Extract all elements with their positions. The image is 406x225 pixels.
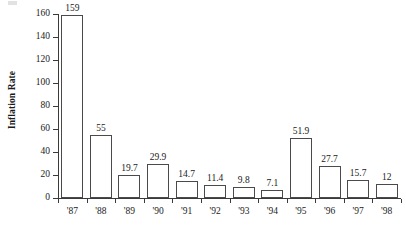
bar (204, 185, 226, 198)
bar-value-label: 51.9 (279, 126, 323, 136)
y-axis-tick-label: 60 (0, 124, 50, 134)
x-axis-tick (58, 199, 59, 203)
bar (261, 190, 283, 198)
y-axis-tick-label: 120 (0, 55, 50, 65)
y-axis-tick-label: 160 (0, 9, 50, 19)
x-axis-tick (287, 199, 288, 203)
scan-artifact (8, 1, 17, 5)
bar (347, 180, 369, 198)
x-axis-tick-label: '98 (367, 206, 406, 216)
bar (176, 181, 198, 198)
bar-value-label: 19.7 (107, 163, 151, 173)
x-axis-tick (201, 199, 202, 203)
y-axis-tick-label: 140 (0, 32, 50, 42)
y-axis-tick-label: 0 (0, 193, 50, 203)
x-axis-tick (344, 199, 345, 203)
x-axis-tick (258, 199, 259, 203)
bar (233, 187, 255, 198)
x-axis-tick (87, 199, 88, 203)
inflation-rate-bar-chart: Inflation Rate 020406080100120140160 '87… (0, 0, 406, 225)
y-axis-tick-label: 80 (0, 101, 50, 111)
bar-value-label: 29.9 (136, 152, 180, 162)
x-axis-tick (115, 199, 116, 203)
bar-value-label: 7.1 (250, 178, 294, 188)
x-axis-tick (144, 199, 145, 203)
bar (118, 175, 140, 198)
x-axis-tick (315, 199, 316, 203)
bar (61, 15, 83, 198)
y-axis-tick-label: 40 (0, 147, 50, 157)
bar (290, 138, 312, 198)
y-axis-tick-label: 20 (0, 170, 50, 180)
bar-value-label: 159 (50, 3, 94, 13)
x-axis-tick (230, 199, 231, 203)
bar-value-label: 27.7 (308, 154, 352, 164)
bar-value-label: 55 (79, 123, 123, 133)
x-axis-tick (401, 199, 402, 203)
bar (376, 184, 398, 198)
x-axis-tick (172, 199, 173, 203)
y-axis-tick-label: 100 (0, 78, 50, 88)
bar-value-label: 12 (365, 172, 406, 182)
x-axis-tick (372, 199, 373, 203)
